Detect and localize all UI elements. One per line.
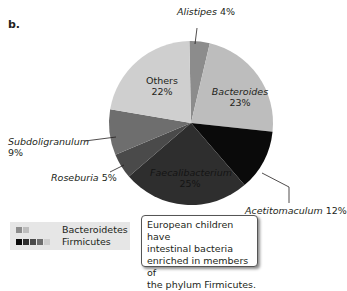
legend: Bacteroidetes Firmicutes [10,222,130,250]
legend-swatch [44,239,50,245]
leader-line-acetitomaculum [262,173,289,203]
label-acetitomaculum: Acetitomaculum 12% [245,205,347,216]
legend-swatch [16,239,22,245]
leader-line-roseburia [110,165,124,172]
label-alistipes: Alistipes 4% [177,6,235,17]
legend-row-bacteroidetes [16,225,30,235]
legend-label-firmicutes: Firmicutes [62,236,111,247]
legend-label-bacteroidetes: Bacteroidetes [62,224,128,235]
legend-swatch [37,239,43,245]
label-roseburia: Roseburia 5% [51,172,117,183]
label-bacteroides: Bacteroides 23% [205,86,275,108]
legend-swatch [16,227,22,233]
legend-row-firmicutes [16,237,51,247]
callout-box: European children have intestinal bacter… [141,215,258,267]
label-subdoligranulum: Subdoligranulum 9% [8,136,89,158]
legend-swatch [30,239,36,245]
legend-swatch [23,239,29,245]
label-faecalibacterium: Faecalibacterium 25% [150,167,230,189]
label-others: Others 22% [137,75,187,97]
legend-swatch [23,227,29,233]
